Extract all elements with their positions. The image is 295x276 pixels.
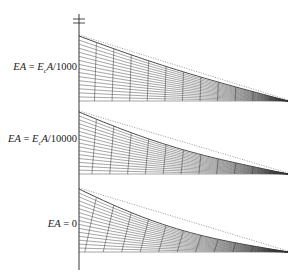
mesh-strut bbox=[235, 87, 236, 101]
mesh-layer bbox=[79, 197, 288, 252]
label-panel-1: EA = EcA/1000 bbox=[13, 61, 77, 74]
label-panel-2: EA = EcA/10000 bbox=[8, 133, 77, 146]
mesh-layer bbox=[79, 201, 288, 252]
reference-line bbox=[79, 111, 288, 173]
mesh-layer bbox=[79, 205, 288, 252]
top-surface-curve bbox=[79, 36, 288, 101]
mesh-strut bbox=[218, 82, 219, 101]
label-panel-3: EA = 0 bbox=[48, 218, 77, 229]
